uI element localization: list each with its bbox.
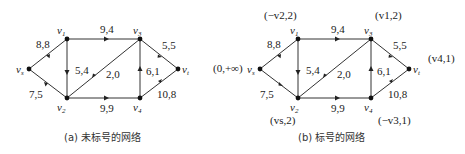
arrow-icon xyxy=(104,37,109,42)
arrow-icon xyxy=(158,79,162,83)
edge-label-v1-v2: 5,4 xyxy=(75,64,89,76)
edge-label-vs-v1: 8,8 xyxy=(36,38,50,50)
edge-label-v3-vt: 5,5 xyxy=(162,39,176,51)
arrow-icon xyxy=(335,37,340,42)
caption-b: (b) 标号的网络 xyxy=(298,131,365,143)
node-label-v2: v2 xyxy=(290,101,299,115)
edge-label-v1-v2: 5,4 xyxy=(306,64,320,76)
arrow-icon xyxy=(138,66,143,71)
node-label-vt: vt xyxy=(182,63,190,77)
edge-label-v3-v2: 2,0 xyxy=(106,68,120,80)
node-label-v3: v3 xyxy=(133,24,142,38)
node-v2 xyxy=(65,96,70,101)
node-label-vs: vs xyxy=(247,63,255,77)
mark-v4: (−v3,1) xyxy=(378,114,411,127)
edge-label-v4-vt: 10,8 xyxy=(388,88,408,100)
edge-label-vs-v2: 7,5 xyxy=(29,88,43,100)
mark-vs: (0,+∞) xyxy=(213,62,243,75)
arrow-icon xyxy=(65,70,70,75)
graph-a: vs v1 v2 v3 v4 vt 8,8 7,5 9,4 5,4 2,0 9,… xyxy=(16,23,190,143)
node-label-v4: v4 xyxy=(133,101,142,115)
arrow-icon xyxy=(92,74,96,79)
edge-label-v1-v3: 9,4 xyxy=(331,23,345,35)
arrow-icon xyxy=(389,79,393,83)
edge-label-v4-vt: 10,8 xyxy=(157,88,177,100)
node-vt xyxy=(407,67,412,72)
arrow-icon xyxy=(296,70,301,75)
arrow-icon xyxy=(279,82,284,86)
edge-label-vs-v2: 7,5 xyxy=(260,88,274,100)
node-label-v1: v1 xyxy=(290,24,298,38)
node-label-vs: vs xyxy=(16,63,24,77)
graph-b: vs v1 v2 v3 v4 vt 8,8 7,5 9,4 5,4 2,0 9,… xyxy=(213,9,455,143)
edge-label-v3-vt: 5,5 xyxy=(393,39,407,51)
node-label-vt: vt xyxy=(413,63,421,77)
edge-label-v4-v3: 6,1 xyxy=(146,65,160,77)
edge-label-v3-v2: 2,0 xyxy=(337,68,351,80)
mark-v2: (vs,2) xyxy=(270,114,296,127)
arrow-icon xyxy=(323,74,327,79)
edge-label-v1-v3: 9,4 xyxy=(100,23,114,35)
node-vs xyxy=(27,67,32,72)
node-v4 xyxy=(138,96,143,101)
node-label-v1: v1 xyxy=(57,24,65,38)
node-v2 xyxy=(296,96,301,101)
node-vt xyxy=(176,67,181,72)
mark-v3: (v1,2) xyxy=(375,9,402,22)
network-diagrams: vs v1 v2 v3 v4 vt 8,8 7,5 9,4 5,4 2,0 9,… xyxy=(0,0,465,154)
caption-a: (a) 未标号的网络 xyxy=(64,131,141,143)
node-vs xyxy=(258,67,263,72)
mark-vt: (v4,1) xyxy=(428,52,455,65)
arrow-icon xyxy=(335,96,340,101)
node-label-v2: v2 xyxy=(57,101,66,115)
node-v4 xyxy=(369,96,374,101)
edge-label-v2-v4: 9,9 xyxy=(100,102,114,114)
edge-label-vs-v1: 8,8 xyxy=(267,38,281,50)
arrow-icon xyxy=(369,66,374,71)
edge-label-v4-v3: 6,1 xyxy=(377,65,391,77)
node-label-v3: v3 xyxy=(364,24,373,38)
mark-v1: (−v2,2) xyxy=(264,9,297,22)
arrow-icon xyxy=(104,96,109,101)
node-label-v4: v4 xyxy=(364,101,373,115)
edge-label-v2-v4: 9,9 xyxy=(331,102,345,114)
